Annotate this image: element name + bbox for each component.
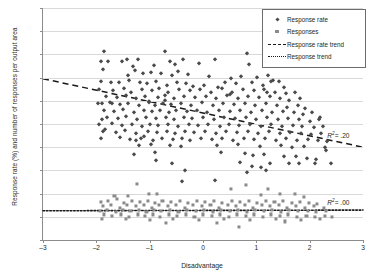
y-axis-tick bbox=[40, 147, 43, 148]
data-point-responses bbox=[300, 219, 303, 222]
y-axis-tick bbox=[40, 101, 43, 102]
data-point-responses bbox=[119, 213, 122, 216]
data-point-response-rate bbox=[308, 119, 312, 123]
data-point-responses bbox=[126, 204, 129, 207]
x-axis-tick bbox=[150, 240, 151, 243]
data-point-responses bbox=[192, 204, 195, 207]
data-point-responses bbox=[176, 214, 179, 217]
data-point-response-rate bbox=[245, 170, 249, 174]
x-axis-tick-label: 2 bbox=[300, 244, 320, 251]
data-point-responses bbox=[324, 209, 327, 212]
data-point-responses bbox=[187, 201, 190, 204]
data-point-response-rate bbox=[324, 148, 328, 152]
data-point-responses bbox=[253, 213, 256, 216]
data-point-responses bbox=[254, 208, 257, 211]
data-point-responses bbox=[270, 213, 273, 216]
data-point-responses bbox=[212, 199, 215, 202]
legend-item-response-trend: Response trend bbox=[267, 51, 361, 64]
data-point-responses bbox=[281, 199, 284, 202]
data-point-responses bbox=[215, 221, 218, 224]
data-point-responses bbox=[228, 209, 231, 212]
data-point-responses bbox=[323, 214, 326, 217]
r-squared-annotation-rate: R2= .20 bbox=[327, 131, 349, 139]
gridline bbox=[43, 194, 363, 195]
legend-item-response-rate-trend: Response rate trend bbox=[267, 38, 361, 51]
diamond-marker-icon bbox=[267, 18, 287, 21]
x-axis-tick bbox=[256, 240, 257, 243]
data-point-responses bbox=[193, 215, 196, 218]
data-point-responses bbox=[178, 199, 181, 202]
data-point-responses bbox=[226, 204, 229, 207]
data-point-responses bbox=[316, 202, 319, 205]
data-point-responses bbox=[167, 213, 170, 216]
scatter-chart-figure: Response rate (%) and number of response… bbox=[0, 0, 376, 278]
data-point-response-rate bbox=[261, 83, 265, 87]
data-point-responses bbox=[248, 219, 251, 222]
data-point-responses bbox=[209, 204, 212, 207]
legend-item-responses: Responses bbox=[267, 26, 361, 39]
data-point-responses bbox=[256, 201, 259, 204]
data-point-responses bbox=[220, 208, 223, 211]
y-axis-tick bbox=[40, 124, 43, 125]
data-point-responses bbox=[204, 200, 207, 203]
data-point-responses bbox=[175, 204, 178, 207]
data-point-responses bbox=[127, 194, 130, 197]
legend-item-response-rate: Response rate bbox=[267, 13, 361, 26]
data-point-responses bbox=[111, 214, 114, 217]
data-point-responses bbox=[244, 183, 247, 186]
data-point-responses bbox=[230, 199, 233, 202]
data-point-responses bbox=[210, 214, 213, 217]
data-point-responses bbox=[136, 213, 139, 216]
data-point-responses bbox=[151, 213, 154, 216]
x-axis-tick bbox=[310, 240, 311, 243]
data-point-response-rate bbox=[293, 90, 297, 94]
data-point-responses bbox=[267, 187, 270, 190]
data-point-responses bbox=[273, 200, 276, 203]
data-point-responses bbox=[229, 187, 232, 190]
data-point-responses bbox=[128, 215, 131, 218]
data-point-responses bbox=[172, 218, 175, 221]
data-point-responses bbox=[114, 211, 117, 214]
gridline bbox=[43, 170, 363, 171]
data-point-responses bbox=[294, 205, 297, 208]
data-point-responses bbox=[331, 215, 334, 218]
data-point-responses bbox=[115, 198, 118, 201]
y-axis-tick bbox=[40, 31, 43, 32]
data-point-responses bbox=[306, 209, 309, 212]
data-point-responses bbox=[237, 208, 240, 211]
chart-legend: Response rate Responses Response rate tr… bbox=[262, 9, 366, 68]
data-point-responses bbox=[313, 215, 316, 218]
data-point-responses bbox=[290, 201, 293, 204]
data-point-responses bbox=[259, 193, 262, 196]
data-point-responses bbox=[319, 218, 322, 221]
data-point-responses bbox=[295, 215, 298, 218]
y-axis-tick bbox=[40, 194, 43, 195]
data-point-responses bbox=[98, 209, 101, 212]
x-axis-tick bbox=[43, 240, 44, 243]
data-point-responses bbox=[315, 211, 318, 214]
gridline bbox=[43, 147, 363, 148]
data-point-responses bbox=[158, 204, 161, 207]
data-point-responses bbox=[146, 199, 149, 202]
data-point-responses bbox=[129, 209, 132, 212]
legend-label: Response rate trend bbox=[287, 41, 344, 48]
x-axis-tick-label: –1 bbox=[140, 244, 160, 251]
data-point-responses bbox=[184, 213, 187, 216]
data-point-responses bbox=[278, 214, 281, 217]
data-point-responses bbox=[185, 208, 188, 211]
data-point-responses bbox=[287, 213, 290, 216]
x-axis-tick-label: –2 bbox=[86, 244, 106, 251]
data-point-responses bbox=[147, 192, 150, 195]
data-point-responses bbox=[139, 200, 142, 203]
gridline bbox=[43, 78, 363, 79]
data-point-responses bbox=[99, 200, 102, 203]
data-point-responses bbox=[247, 199, 250, 202]
data-point-responses bbox=[239, 200, 242, 203]
data-point-responses bbox=[102, 213, 105, 216]
data-point-responses bbox=[238, 226, 241, 229]
x-axis-title: Disadvantage bbox=[42, 262, 362, 269]
data-point-responses bbox=[223, 218, 226, 221]
data-point-responses bbox=[261, 215, 264, 218]
data-point-responses bbox=[101, 205, 104, 208]
data-point-responses bbox=[160, 209, 163, 212]
